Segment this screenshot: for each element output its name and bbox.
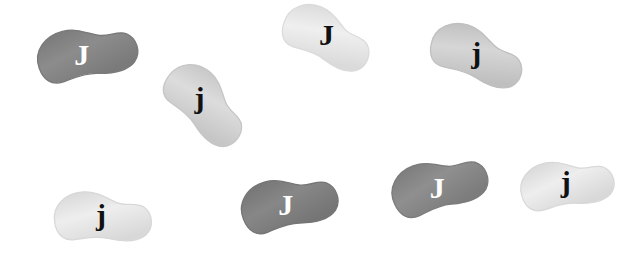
- jelly-bean-lowercase-j-2: j: [148, 47, 264, 160]
- bean-letter-label: J: [278, 190, 293, 220]
- bean-scene: JjJjjJJj: [0, 0, 641, 259]
- bean-letter-label: J: [319, 20, 334, 50]
- bean-shape-icon: [148, 47, 264, 160]
- bean-letter-label: J: [430, 173, 445, 203]
- jelly-bean-uppercase-j-6: J: [228, 159, 348, 245]
- bean-letter-label: j: [471, 38, 481, 68]
- jelly-bean-uppercase-j-3: J: [269, 0, 385, 81]
- bean-letter-label: J: [74, 40, 89, 70]
- bean-letter-label: j: [194, 83, 204, 113]
- jelly-bean-uppercase-j-7: J: [377, 138, 498, 229]
- jelly-bean-uppercase-j-1: J: [25, 10, 148, 93]
- jelly-bean-lowercase-j-5: j: [47, 186, 157, 246]
- bean-letter-label: j: [561, 167, 571, 197]
- jelly-bean-lowercase-j-8: j: [510, 146, 623, 220]
- jelly-bean-lowercase-j-4: j: [418, 11, 536, 97]
- bean-letter-label: j: [96, 200, 106, 230]
